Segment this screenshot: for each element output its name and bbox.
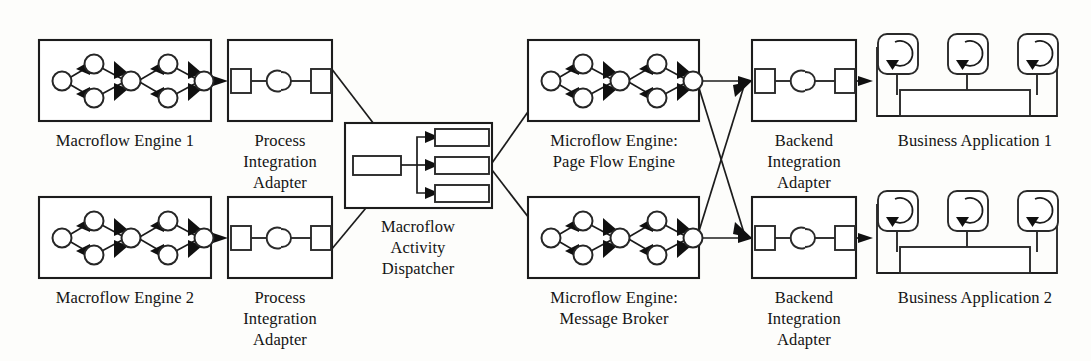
adapter-connector-icon bbox=[231, 226, 331, 250]
node-process-integration-adapter-2[interactable]: Process Integration Adapter bbox=[228, 197, 332, 349]
dispatcher-label-line2: Activity bbox=[391, 238, 447, 257]
dispatcher-label-line1: Macroflow bbox=[381, 217, 455, 236]
backend-adapter-2-label-line3: Adapter bbox=[777, 330, 831, 349]
application-components-icon bbox=[877, 191, 1058, 273]
process-adapter-1-label-line2: Integration bbox=[243, 152, 317, 171]
architecture-diagram: Macroflow Engine 1 Process Integration A… bbox=[0, 0, 1091, 361]
adapter-connector-icon bbox=[231, 69, 331, 93]
process-adapter-2-label-line1: Process bbox=[254, 288, 305, 307]
backend-adapter-1-label-line2: Integration bbox=[767, 152, 841, 171]
application-components-icon bbox=[877, 34, 1058, 116]
business-application-2-label: Business Application 2 bbox=[898, 288, 1052, 307]
node-business-application-2[interactable]: Business Application 2 bbox=[877, 191, 1058, 307]
process-adapter-1-label-line1: Process bbox=[254, 131, 305, 150]
node-macroflow-engine-2[interactable]: Macroflow Engine 2 bbox=[39, 197, 214, 307]
connection-backend2-to-app2 bbox=[856, 233, 873, 243]
process-adapter-1-label-line3: Adapter bbox=[253, 173, 307, 192]
node-macroflow-engine-1[interactable]: Macroflow Engine 1 bbox=[39, 40, 214, 150]
adapter-connector-icon bbox=[755, 226, 855, 250]
node-backend-integration-adapter-2[interactable]: Backend Integration Adapter bbox=[752, 197, 856, 349]
node-microflow-engine-message-broker[interactable]: Microflow Engine: Message Broker bbox=[528, 197, 703, 328]
dispatcher-label-line3: Dispatcher bbox=[382, 259, 455, 278]
backend-adapter-2-label-line1: Backend bbox=[775, 288, 834, 307]
microflow-message-broker-label-line2: Message Broker bbox=[559, 309, 668, 328]
process-adapter-2-label-line3: Adapter bbox=[253, 330, 307, 349]
node-business-application-1[interactable]: Business Application 1 bbox=[877, 34, 1058, 150]
connection-microflow-broker-to-backend1 bbox=[699, 81, 752, 231]
microflow-message-broker-label-line1: Microflow Engine: bbox=[550, 288, 678, 307]
node-backend-integration-adapter-1[interactable]: Backend Integration Adapter bbox=[752, 40, 856, 192]
connection-microflow-page-to-backend2 bbox=[699, 88, 752, 238]
macroflow-engine-1-label: Macroflow Engine 1 bbox=[56, 131, 194, 150]
backend-adapter-2-label-line2: Integration bbox=[767, 309, 841, 328]
microflow-page-flow-label-line1: Microflow Engine: bbox=[550, 131, 678, 150]
node-process-integration-adapter-1[interactable]: Process Integration Adapter bbox=[228, 40, 332, 192]
business-application-1-label: Business Application 1 bbox=[898, 131, 1052, 150]
backend-adapter-1-label-line1: Backend bbox=[775, 131, 834, 150]
diagram-canvas: Macroflow Engine 1 Process Integration A… bbox=[0, 0, 1091, 361]
macroflow-engine-2-label: Macroflow Engine 2 bbox=[56, 288, 194, 307]
adapter-connector-icon bbox=[755, 69, 855, 93]
microflow-page-flow-label-line2: Page Flow Engine bbox=[553, 152, 676, 171]
connection-backend1-to-app1 bbox=[856, 76, 873, 86]
backend-adapter-1-label-line3: Adapter bbox=[777, 173, 831, 192]
node-macroflow-activity-dispatcher[interactable]: Macroflow Activity Dispatcher bbox=[345, 123, 492, 278]
process-adapter-2-label-line2: Integration bbox=[243, 309, 317, 328]
node-microflow-engine-page-flow[interactable]: Microflow Engine: Page Flow Engine bbox=[528, 40, 703, 171]
